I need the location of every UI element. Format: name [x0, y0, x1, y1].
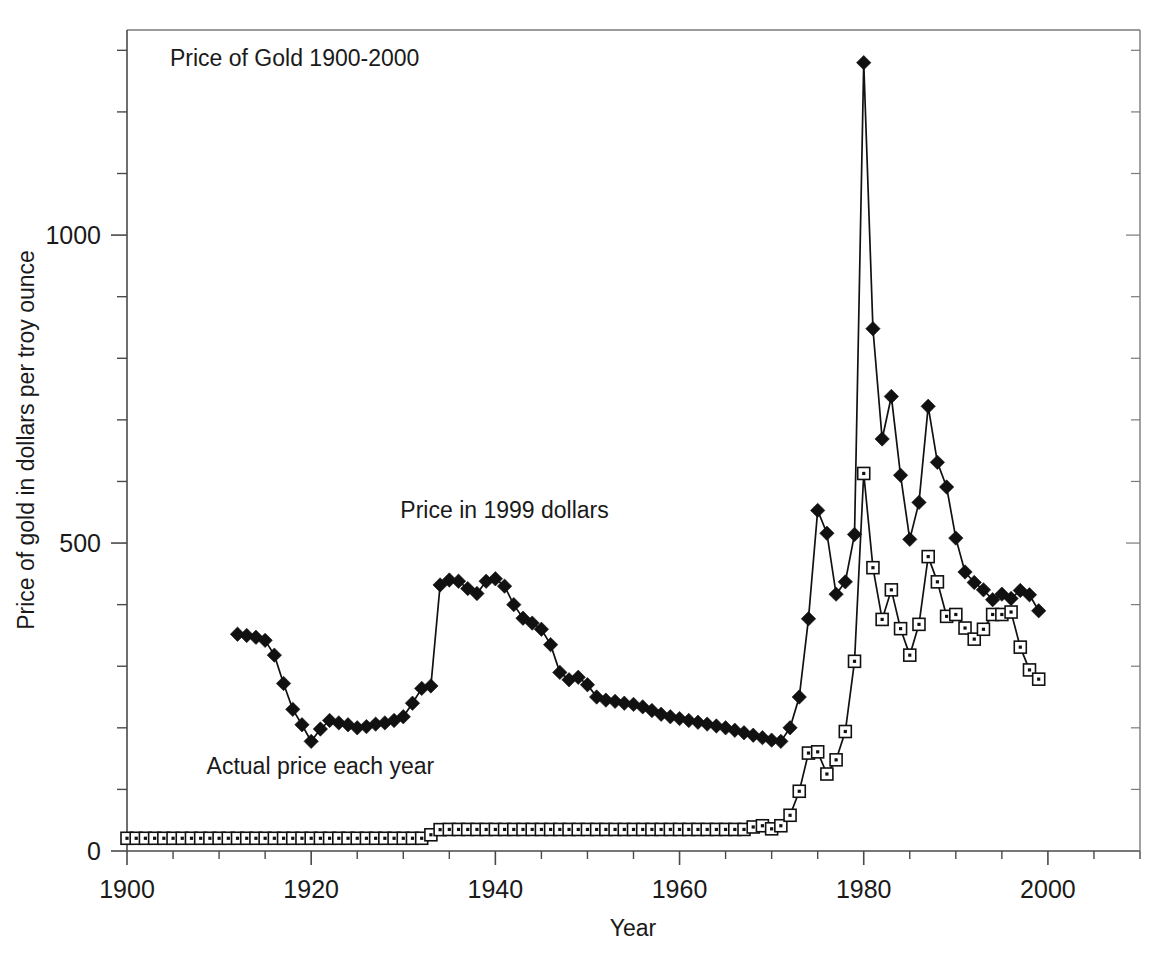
square-marker-center — [678, 828, 681, 831]
square-marker-center — [613, 828, 616, 831]
x-tick-label: 1900 — [99, 875, 155, 903]
square-marker-center — [411, 837, 414, 840]
square-marker-center — [365, 837, 368, 840]
square-marker-center — [503, 828, 506, 831]
square-marker-center — [908, 654, 911, 657]
square-marker-center — [282, 837, 285, 840]
square-marker-center — [531, 828, 534, 831]
square-marker-center — [402, 837, 405, 840]
square-marker-center — [660, 828, 663, 831]
x-tick-label: 2000 — [1020, 875, 1076, 903]
square-marker-center — [788, 814, 791, 817]
square-marker-center — [245, 837, 248, 840]
square-marker-center — [650, 828, 653, 831]
x-tick-label: 1980 — [836, 875, 892, 903]
square-marker-center — [549, 828, 552, 831]
chart-annotation: Actual price each year — [207, 753, 435, 779]
square-marker-center — [171, 837, 174, 840]
chart-background — [0, 0, 1167, 962]
square-marker-center — [392, 837, 395, 840]
square-marker-center — [540, 828, 543, 831]
square-marker-center — [927, 555, 930, 558]
square-marker-center — [310, 837, 313, 840]
square-marker-center — [1037, 678, 1040, 681]
y-tick-label: 0 — [87, 837, 101, 865]
square-marker-center — [475, 828, 478, 831]
square-marker-center — [217, 837, 220, 840]
square-marker-center — [687, 828, 690, 831]
square-marker-center — [945, 615, 948, 618]
square-marker-center — [641, 828, 644, 831]
square-marker-center — [208, 837, 211, 840]
square-marker-center — [890, 588, 893, 591]
square-marker-center — [835, 758, 838, 761]
square-marker-center — [1000, 613, 1003, 616]
square-marker-center — [1028, 668, 1031, 671]
square-marker-center — [816, 750, 819, 753]
square-marker-center — [429, 833, 432, 836]
square-marker-center — [457, 828, 460, 831]
square-marker-center — [881, 618, 884, 621]
square-marker-center — [328, 837, 331, 840]
square-marker-center — [374, 837, 377, 840]
square-marker-center — [853, 660, 856, 663]
square-marker-center — [871, 566, 874, 569]
square-marker-center — [521, 828, 524, 831]
square-marker-center — [337, 837, 340, 840]
y-tick-label: 1000 — [45, 221, 101, 249]
square-marker-center — [936, 580, 939, 583]
square-marker-center — [632, 828, 635, 831]
y-axis-title: Price of gold in dollars per troy ounce — [13, 250, 39, 630]
square-marker-center — [733, 828, 736, 831]
square-marker-center — [963, 626, 966, 629]
gold-price-line-chart: 190019201940196019802000 05001000 Price … — [0, 0, 1167, 962]
square-marker-center — [162, 837, 165, 840]
square-marker-center — [604, 828, 607, 831]
y-tick-label: 500 — [59, 529, 101, 557]
square-marker-center — [724, 828, 727, 831]
square-marker-center — [291, 837, 294, 840]
x-tick-label: 1940 — [468, 875, 524, 903]
x-tick-label: 1920 — [283, 875, 339, 903]
chart-title: Price of Gold 1900-2000 — [170, 45, 419, 71]
square-marker-center — [706, 828, 709, 831]
square-marker-center — [742, 828, 745, 831]
square-marker-center — [420, 837, 423, 840]
square-marker-center — [558, 828, 561, 831]
chart-annotation: Price in 1999 dollars — [400, 497, 608, 523]
square-marker-center — [1009, 610, 1012, 613]
square-marker-center — [595, 828, 598, 831]
square-marker-center — [319, 837, 322, 840]
chart-figure: 190019201940196019802000 05001000 Price … — [0, 0, 1167, 962]
square-marker-center — [917, 623, 920, 626]
square-marker-center — [798, 790, 801, 793]
square-marker-center — [485, 828, 488, 831]
square-marker-center — [190, 837, 193, 840]
square-marker-center — [153, 837, 156, 840]
square-marker-center — [862, 472, 865, 475]
square-marker-center — [669, 828, 672, 831]
square-marker-center — [899, 627, 902, 630]
square-marker-center — [577, 828, 580, 831]
square-marker-center — [973, 638, 976, 641]
square-marker-center — [715, 828, 718, 831]
square-marker-center — [144, 837, 147, 840]
square-marker-center — [300, 837, 303, 840]
square-marker-center — [254, 837, 257, 840]
square-marker-center — [383, 837, 386, 840]
square-marker-center — [439, 828, 442, 831]
square-marker-center — [494, 828, 497, 831]
square-marker-center — [236, 837, 239, 840]
square-marker-center — [346, 837, 349, 840]
square-marker-center — [125, 837, 128, 840]
square-marker-center — [696, 828, 699, 831]
square-marker-center — [807, 751, 810, 754]
square-marker-center — [567, 828, 570, 831]
square-marker-center — [586, 828, 589, 831]
square-marker-center — [448, 828, 451, 831]
x-axis-title: Year — [610, 915, 657, 941]
square-marker-center — [761, 824, 764, 827]
square-marker-center — [770, 827, 773, 830]
square-marker-center — [991, 613, 994, 616]
square-marker-center — [199, 837, 202, 840]
